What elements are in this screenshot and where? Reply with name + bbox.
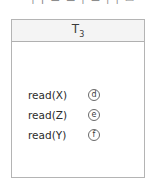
operation-marker-icon: d xyxy=(88,89,100,101)
operation-list: read(X) d read(Z) e read(Y) f xyxy=(12,85,144,145)
operation-marker-icon: e xyxy=(88,109,100,121)
operation-row: read(Y) f xyxy=(12,125,144,145)
clipped-top-text: · ¦ ¡ ▬ ▬ ¦ ▬ ¦ ¦ ▭ xyxy=(22,0,136,4)
transaction-title: T3 xyxy=(72,23,84,38)
transaction-header: T3 xyxy=(12,20,144,42)
transaction-title-subscript: 3 xyxy=(79,30,84,39)
transaction-body: read(X) d read(Z) e read(Y) f xyxy=(12,42,144,177)
operation-label: read(X) xyxy=(28,89,88,101)
operation-label: read(Z) xyxy=(28,109,88,121)
operation-row: read(X) d xyxy=(12,85,144,105)
operation-label: read(Y) xyxy=(28,129,88,141)
operation-marker-icon: f xyxy=(88,129,100,141)
clipped-top-text-region: · ¦ ¡ ▬ ▬ ¦ ▬ ¦ ¦ ▭ xyxy=(0,0,155,7)
transaction-box: T3 read(X) d read(Z) e read(Y) f xyxy=(11,19,145,178)
operation-row: read(Z) e xyxy=(12,105,144,125)
